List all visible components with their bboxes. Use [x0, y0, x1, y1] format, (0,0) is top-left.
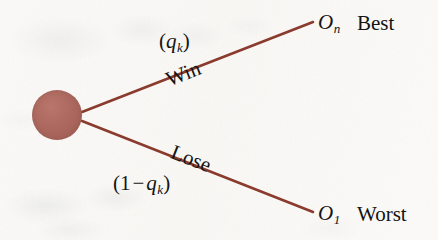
outcome-symbol-O: O	[318, 10, 333, 34]
worst-outcome-word: Worst	[357, 204, 407, 225]
close-paren: )	[163, 171, 170, 195]
best-outcome-word: Best	[357, 13, 394, 34]
close-paren: )	[183, 29, 190, 53]
probability-symbol-q: q	[146, 171, 157, 195]
outcome-subscript-1: 1	[333, 212, 340, 227]
outcome-subscript-n: n	[333, 21, 340, 36]
best-outcome-symbol: On	[318, 12, 340, 35]
open-paren: (	[113, 171, 120, 195]
minus-sign: −	[131, 171, 147, 195]
probability-one: 1	[120, 171, 131, 195]
decision-tree-figure: (qk) Win Lose (1−qk) On Best O1 Worst	[0, 0, 438, 240]
outcome-symbol-O: O	[318, 201, 333, 225]
probability-symbol-q: q	[166, 29, 177, 53]
open-paren: (	[159, 29, 166, 53]
win-probability-label: (qk)	[159, 31, 190, 54]
lose-probability-label: (1−qk)	[113, 173, 170, 196]
root-decision-node	[32, 90, 82, 140]
worst-outcome-symbol: O1	[318, 203, 340, 226]
